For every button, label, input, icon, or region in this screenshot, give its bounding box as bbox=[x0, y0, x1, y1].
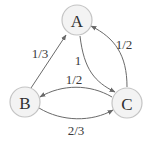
edge-b-to-a: 1/3 bbox=[31, 35, 66, 88]
edge-b-to-a-arrow bbox=[31, 35, 66, 88]
edge-c-to-a: 1/2 bbox=[91, 26, 132, 87]
edge-b-to-a-label: 1/3 bbox=[32, 46, 49, 61]
node-c: C bbox=[112, 88, 142, 118]
edge-a-to-c-arrow bbox=[80, 36, 115, 92]
node-a: A bbox=[62, 5, 92, 35]
edge-c-to-b-label: 1/2 bbox=[66, 72, 83, 87]
edge-c-to-b: 1/2 bbox=[40, 72, 112, 98]
node-b: B bbox=[10, 87, 40, 117]
node-a-label: A bbox=[71, 12, 84, 31]
node-c-label: C bbox=[121, 95, 132, 114]
edge-b-to-c-arrow bbox=[39, 108, 113, 119]
node-b-label: B bbox=[19, 94, 30, 113]
edge-c-to-b-arrow bbox=[40, 87, 112, 97]
markov-chain-diagram: 1/3 1 1/2 1/2 2/3 A B C bbox=[0, 0, 150, 141]
edge-c-to-a-arrow bbox=[91, 26, 127, 87]
edge-a-to-c-label: 1 bbox=[75, 53, 82, 68]
edge-b-to-c: 2/3 bbox=[39, 108, 113, 138]
edge-b-to-c-label: 2/3 bbox=[68, 123, 85, 138]
edge-c-to-a-label: 1/2 bbox=[116, 37, 133, 52]
